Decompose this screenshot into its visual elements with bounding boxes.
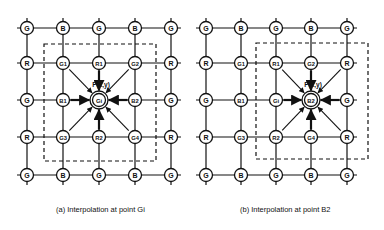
pixel-node-gi: Gi bbox=[90, 91, 108, 109]
svg-text:B: B bbox=[132, 172, 137, 179]
svg-text:R: R bbox=[168, 134, 173, 141]
svg-text:B: B bbox=[132, 25, 137, 32]
svg-text:R1: R1 bbox=[95, 61, 103, 67]
svg-text:G4: G4 bbox=[307, 135, 316, 141]
svg-text:G: G bbox=[344, 172, 350, 179]
pixel-node-g2: G2 bbox=[305, 57, 318, 70]
svg-text:R: R bbox=[203, 134, 208, 141]
svg-text:G: G bbox=[168, 172, 174, 179]
pixel-node-g: G bbox=[21, 22, 34, 35]
pixel-node-r: R bbox=[165, 57, 178, 70]
pixel-node-r2: R2 bbox=[270, 131, 283, 144]
svg-text:R: R bbox=[344, 134, 349, 141]
pixel-node-b1: B1 bbox=[235, 94, 248, 107]
pixel-node-r1: R1 bbox=[93, 57, 106, 70]
pixel-node-b: B bbox=[129, 169, 142, 182]
pixel-node-g: G bbox=[341, 22, 354, 35]
pixel-node-r: R bbox=[200, 131, 213, 144]
pixel-node-r1: R1 bbox=[270, 57, 283, 70]
pixel-node-g: G bbox=[165, 169, 178, 182]
pixel-node-g1: G1 bbox=[57, 57, 70, 70]
svg-text:G: G bbox=[96, 25, 102, 32]
svg-text:B1: B1 bbox=[59, 98, 67, 104]
svg-text:G: G bbox=[344, 25, 350, 32]
interpolation-arrow bbox=[106, 107, 129, 130]
svg-text:G3: G3 bbox=[237, 135, 246, 141]
svg-text:G4: G4 bbox=[131, 135, 140, 141]
svg-text:R: R bbox=[168, 60, 173, 67]
pixel-node-g: G bbox=[93, 22, 106, 35]
pixel-node-b: B bbox=[57, 169, 70, 182]
pixel-node-g: G bbox=[270, 22, 283, 35]
svg-text:G: G bbox=[24, 25, 30, 32]
pixel-node-g: G bbox=[341, 169, 354, 182]
interpolation-arrow bbox=[69, 107, 92, 130]
pixel-node-g4: G4 bbox=[305, 131, 318, 144]
svg-text:G: G bbox=[168, 97, 174, 104]
pixel-node-gi: Gi bbox=[270, 94, 283, 107]
svg-text:G: G bbox=[168, 25, 174, 32]
point-label: P(x,y) bbox=[304, 81, 322, 89]
interpolation-arrow bbox=[282, 107, 304, 130]
svg-text:B: B bbox=[60, 25, 65, 32]
pixel-node-r2: R2 bbox=[93, 131, 106, 144]
svg-text:B: B bbox=[238, 172, 243, 179]
svg-text:R2: R2 bbox=[272, 135, 279, 141]
svg-text:B2: B2 bbox=[307, 98, 314, 104]
svg-text:R: R bbox=[203, 60, 208, 67]
pixel-node-g: G bbox=[21, 94, 34, 107]
pixel-node-g: G bbox=[341, 94, 354, 107]
point-label: P(x,y) bbox=[92, 81, 110, 89]
svg-text:G: G bbox=[203, 172, 209, 179]
svg-text:G: G bbox=[273, 25, 279, 32]
svg-text:G: G bbox=[273, 172, 279, 179]
pixel-node-b: B bbox=[305, 169, 318, 182]
svg-text:Gi: Gi bbox=[96, 98, 103, 104]
pixel-node-g: G bbox=[165, 22, 178, 35]
pixel-node-g3: G3 bbox=[235, 131, 248, 144]
svg-text:B: B bbox=[238, 25, 243, 32]
svg-text:B: B bbox=[60, 172, 65, 179]
svg-text:B1: B1 bbox=[237, 98, 245, 104]
interpolation-arrow bbox=[282, 70, 304, 93]
pixel-node-g4: G4 bbox=[129, 131, 142, 144]
svg-text:G: G bbox=[203, 97, 209, 104]
svg-text:G1: G1 bbox=[237, 61, 246, 67]
pixel-node-r: R bbox=[21, 57, 34, 70]
pixel-node-g: G bbox=[200, 94, 213, 107]
interpolation-arrow bbox=[69, 69, 92, 92]
svg-text:B: B bbox=[308, 172, 313, 179]
svg-text:G: G bbox=[203, 25, 209, 32]
caption-b: (b) Interpolation at point B2 bbox=[240, 205, 330, 214]
svg-text:R: R bbox=[344, 60, 349, 67]
svg-text:R2: R2 bbox=[95, 135, 102, 141]
svg-text:B: B bbox=[308, 25, 313, 32]
pixel-node-b1: B1 bbox=[57, 94, 70, 107]
pixel-node-g3: G3 bbox=[57, 131, 70, 144]
pixel-node-r: R bbox=[21, 131, 34, 144]
svg-text:R: R bbox=[24, 134, 29, 141]
svg-text:G: G bbox=[24, 97, 30, 104]
pixel-node-g: G bbox=[200, 22, 213, 35]
pixel-node-b2: B2 bbox=[302, 91, 320, 109]
pixel-node-g1: G1 bbox=[235, 57, 248, 70]
pixel-node-r: R bbox=[200, 57, 213, 70]
svg-text:G: G bbox=[24, 172, 30, 179]
diagram-interpolation-b2: GBGBGRG1R1G2RGB1GiB2GRG3R2G4RGBGBGP(x,y) bbox=[196, 18, 368, 185]
pixel-node-b2: B2 bbox=[129, 94, 142, 107]
svg-text:G2: G2 bbox=[131, 61, 139, 67]
svg-text:G: G bbox=[96, 172, 102, 179]
pixel-node-b: B bbox=[129, 22, 142, 35]
svg-text:G2: G2 bbox=[307, 61, 315, 67]
pixel-node-g: G bbox=[93, 169, 106, 182]
svg-text:G3: G3 bbox=[59, 135, 68, 141]
svg-text:G1: G1 bbox=[59, 61, 68, 67]
diagram-interpolation-gi: GBGBGRG1R1G2RGB1GiB2GRG3R2G4RGBGBGP(x,y) bbox=[17, 18, 181, 185]
pixel-node-b: B bbox=[235, 22, 248, 35]
pixel-node-g: G bbox=[270, 169, 283, 182]
svg-text:R: R bbox=[24, 60, 29, 67]
pixel-node-g: G bbox=[165, 94, 178, 107]
svg-text:B2: B2 bbox=[131, 98, 138, 104]
pixel-node-g2: G2 bbox=[129, 57, 142, 70]
pixel-node-r: R bbox=[165, 131, 178, 144]
